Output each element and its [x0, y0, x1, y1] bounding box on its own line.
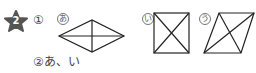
rhombus-figure: [59, 20, 124, 52]
part2-label: ②: [33, 55, 44, 69]
part2-answer: ②あ、い: [33, 55, 80, 69]
square-figure: [154, 13, 189, 53]
parallelogram-figure: [204, 13, 254, 53]
part2-answer-text: あ、い: [44, 55, 80, 69]
